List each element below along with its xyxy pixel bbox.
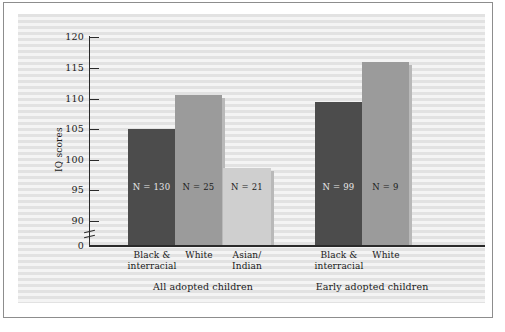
- category-label-g1b3-line1: Asian/: [233, 250, 262, 260]
- plot-area: IQ scores 120 115 110 105 100 95 90 0 N …: [0, 0, 505, 332]
- category-label-g2b2-line1: White: [372, 250, 399, 260]
- y-tick-110: [90, 99, 99, 100]
- category-label-g1b2-line1: White: [185, 250, 212, 260]
- category-label-g2b1-line1: Black &: [321, 250, 358, 260]
- category-label-g1b3-line2: Indian: [232, 261, 262, 271]
- y-tick-label-95: 95: [50, 184, 84, 195]
- category-label-g1b1-line2: interracial: [128, 261, 177, 271]
- category-label-g1b3: Asian/ Indian: [215, 250, 279, 272]
- y-tick-label-zero: 0: [50, 240, 84, 251]
- bar-n-label-g1b2: N = 25: [175, 182, 222, 192]
- y-tick-100: [90, 160, 99, 161]
- y-tick-95: [90, 190, 99, 191]
- bar-g2-white[interactable]: [362, 62, 409, 245]
- y-tick-115: [90, 68, 99, 69]
- group-label-early-adopted: Early adopted children: [296, 281, 448, 292]
- figure-container: IQ scores 120 115 110 105 100 95 90 0 N …: [0, 0, 505, 332]
- y-tick-label-110: 110: [50, 93, 84, 104]
- bar-g1-asian-indian[interactable]: [223, 168, 271, 245]
- y-tick-105: [90, 129, 99, 130]
- bar-n-label-g2b1: N = 99: [315, 182, 362, 192]
- x-axis-line: [89, 245, 485, 247]
- y-tick-label-90: 90: [50, 215, 84, 226]
- bar-n-label-g1b3: N = 21: [223, 182, 271, 192]
- y-tick-label-120: 120: [50, 31, 84, 42]
- category-label-g2b1-line2: interracial: [315, 261, 364, 271]
- y-tick-90: [90, 221, 99, 222]
- bar-g2-black-interracial[interactable]: [315, 102, 362, 245]
- bar-n-label-g1b1: N = 130: [128, 182, 175, 192]
- category-label-g1b1-line1: Black &: [134, 250, 171, 260]
- y-tick-label-105: 105: [50, 123, 84, 134]
- y-tick-label-100: 100: [50, 154, 84, 165]
- group-label-all-adopted: All adopted children: [134, 281, 272, 292]
- category-label-g2b2: White: [354, 250, 418, 261]
- bar-n-label-g2b2: N = 9: [362, 182, 409, 192]
- bar-g1-white[interactable]: [175, 95, 222, 245]
- y-tick-120: [90, 37, 99, 38]
- y-tick-label-115: 115: [50, 62, 84, 73]
